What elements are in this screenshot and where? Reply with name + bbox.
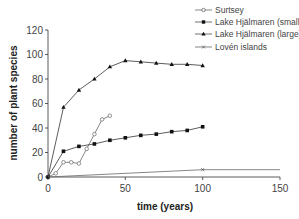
- filled-square-marker-icon: [124, 136, 128, 140]
- legend-label: Lake Hjälmaren (large): [215, 29, 299, 39]
- x-axis-title: time (years): [137, 201, 193, 212]
- filled-square-marker-icon: [139, 134, 143, 138]
- legend-item-hjalmaren-large: Lake Hjälmaren (large): [195, 29, 299, 39]
- y-axis-title: number of plant species: [8, 45, 19, 160]
- filled-square-marker-icon: [202, 20, 205, 23]
- legend-label: Lovén islands: [215, 42, 267, 52]
- filled-square-marker-icon: [62, 149, 66, 153]
- filled-square-marker-icon: [201, 125, 205, 129]
- filled-triangle-marker-icon: [123, 58, 127, 62]
- x-tick-label: 150: [272, 183, 289, 194]
- open-circle-marker-icon: [202, 8, 205, 11]
- legend-label: Lake Hjälmaren (small): [215, 17, 299, 27]
- filled-square-marker-icon: [93, 142, 97, 146]
- filled-square-marker-icon: [185, 129, 189, 133]
- y-tick-label: 0: [37, 172, 43, 183]
- legend-item-hjalmaren-small: Lake Hjälmaren (small): [195, 17, 299, 27]
- series-lake-hj-lmaren-large-: [48, 58, 205, 177]
- open-circle-marker-icon: [108, 114, 112, 118]
- open-circle-marker-icon: [62, 161, 66, 165]
- species-accumulation-chart: 020406080100120 050100150 number of plan…: [0, 0, 299, 219]
- y-tick-label: 80: [32, 74, 44, 85]
- plot-area: [46, 58, 280, 178]
- x-axis: 050100150: [45, 177, 289, 194]
- legend-item-surtsey: Surtsey: [195, 5, 245, 15]
- open-circle-marker-icon: [93, 132, 97, 136]
- open-circle-marker-icon: [77, 162, 81, 166]
- filled-triangle-marker-icon: [77, 88, 81, 92]
- legend-label: Surtsey: [215, 5, 245, 15]
- y-tick-label: 20: [32, 147, 44, 158]
- filled-square-marker-icon: [170, 130, 174, 134]
- x-tick-label: 50: [120, 183, 132, 194]
- y-tick-label: 100: [26, 49, 43, 60]
- open-circle-marker-icon: [100, 118, 104, 122]
- filled-square-marker-icon: [154, 132, 158, 136]
- x-tick-label: 0: [45, 183, 51, 194]
- series-lov-n-islands: [48, 168, 280, 177]
- y-axis: 020406080100120: [26, 25, 48, 183]
- legend-item-loven-islands: Lovén islands: [195, 42, 267, 52]
- y-tick-label: 60: [32, 98, 44, 109]
- open-circle-marker-icon: [69, 161, 73, 165]
- open-circle-marker-icon: [54, 172, 58, 176]
- filled-square-marker-icon: [77, 145, 81, 149]
- legend: Surtsey Lake Hjälmaren (small) Lake Hjäl…: [195, 5, 299, 52]
- open-circle-marker-icon: [85, 147, 89, 151]
- y-tick-label: 120: [26, 25, 43, 36]
- filled-square-marker-icon: [108, 138, 112, 142]
- x-tick-label: 100: [194, 183, 211, 194]
- y-tick-label: 40: [32, 123, 44, 134]
